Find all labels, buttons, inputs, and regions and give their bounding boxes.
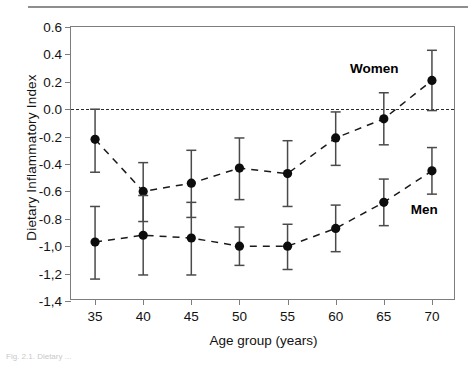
- x-axis-tick-label: 35: [88, 309, 103, 324]
- data-point-marker: [379, 114, 388, 123]
- figure-caption: Fig. 2.1. Dietary ...: [6, 352, 306, 364]
- data-point-marker: [235, 164, 244, 173]
- y-axis-tick-label: -0.2: [39, 129, 62, 144]
- y-axis-tick: [65, 54, 71, 55]
- data-point-marker: [283, 242, 292, 251]
- data-point-marker: [139, 231, 148, 240]
- y-axis-tick-label: -1,4: [39, 294, 62, 309]
- x-axis-tick: [143, 299, 144, 305]
- x-axis-tick: [432, 299, 433, 305]
- y-axis-tick: [65, 109, 71, 110]
- data-point-marker: [427, 166, 436, 175]
- x-axis-tick-label: 55: [280, 309, 295, 324]
- data-point-marker: [139, 187, 148, 196]
- data-point-marker: [331, 133, 340, 142]
- x-axis-tick-label: 50: [232, 309, 247, 324]
- y-axis-title: Dietary Inflammatory Index: [24, 23, 39, 293]
- y-axis-tick: [65, 274, 71, 275]
- data-point-marker: [187, 179, 196, 188]
- x-axis-tick: [191, 299, 192, 305]
- plot-area: 0.60.40.20.0-0.2-0.4-0.6-0.8-1,0-1,2-1,4…: [70, 26, 455, 300]
- y-axis-tick-label: -1,2: [39, 266, 62, 281]
- x-axis-tick: [239, 299, 240, 305]
- data-point-marker: [331, 224, 340, 233]
- x-axis-tick-label: 60: [328, 309, 343, 324]
- y-axis-tick-label: -1,0: [39, 239, 62, 254]
- y-axis-tick: [65, 27, 71, 28]
- y-axis-tick: [65, 191, 71, 192]
- x-axis-tick-label: 45: [184, 309, 199, 324]
- series-annotation-women: Women: [350, 61, 399, 76]
- data-point-marker: [379, 198, 388, 207]
- y-axis-tick-label: 0.0: [43, 102, 62, 117]
- y-axis-tick-label: 0.6: [43, 20, 62, 35]
- y-axis-tick-label: 0.4: [43, 47, 62, 62]
- y-axis-tick-label: 0.2: [43, 74, 62, 89]
- y-axis-tick-label: -0.6: [39, 184, 62, 199]
- x-axis-tick-label: 40: [136, 309, 151, 324]
- y-axis-tick-label: -0.4: [39, 157, 62, 172]
- x-axis-tick: [384, 299, 385, 305]
- y-axis-tick: [65, 219, 71, 220]
- data-point-marker: [90, 135, 99, 144]
- y-axis-tick: [65, 246, 71, 247]
- x-axis-tick: [95, 299, 96, 305]
- x-axis-tick: [336, 299, 337, 305]
- series-men: [90, 148, 437, 280]
- plot-inner: 0.60.40.20.0-0.2-0.4-0.6-0.8-1,0-1,2-1,4…: [71, 27, 454, 299]
- series-line: [95, 80, 432, 191]
- y-axis-tick: [65, 164, 71, 165]
- data-point-marker: [427, 76, 436, 85]
- y-axis-tick: [65, 301, 71, 302]
- y-axis-tick-label: -0.8: [39, 211, 62, 226]
- y-axis-tick: [65, 137, 71, 138]
- x-axis-tick: [288, 299, 289, 305]
- x-axis-title: Age group (years): [71, 333, 456, 348]
- series-annotation-men: Men: [411, 202, 438, 217]
- data-point-marker: [283, 169, 292, 178]
- data-point-marker: [187, 233, 196, 242]
- data-point-marker: [235, 242, 244, 251]
- y-axis-tick: [65, 82, 71, 83]
- data-point-marker: [90, 237, 99, 246]
- x-axis-tick-label: 70: [424, 309, 439, 324]
- figure-page: Dietary Inflammatory Index 0.60.40.20.0-…: [0, 0, 473, 365]
- x-axis-tick-label: 65: [376, 309, 391, 324]
- page-top-rule: [28, 6, 468, 8]
